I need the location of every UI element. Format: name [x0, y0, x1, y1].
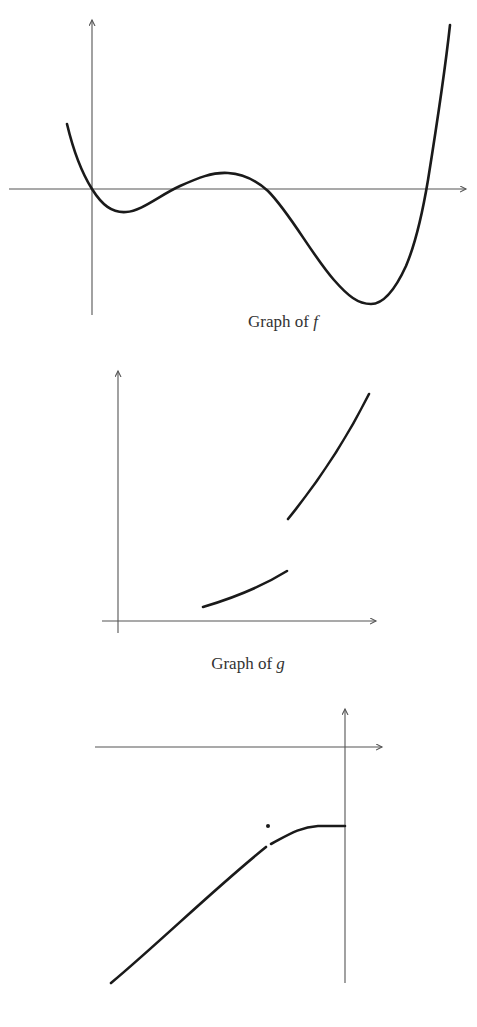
graph-h-panel — [0, 0, 477, 1027]
isolated-point — [266, 824, 270, 828]
graph-h-plot — [0, 0, 477, 1027]
curve-h-right-branch — [271, 826, 345, 844]
curve-h-left-branch — [111, 847, 266, 983]
